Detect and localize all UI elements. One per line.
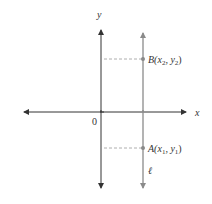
x-axis-label: x xyxy=(194,107,200,118)
coordinate-diagram: y x 0 B(x2, y2) A(x1, y1) ℓ xyxy=(0,0,212,204)
point-b xyxy=(141,57,145,61)
origin-label: 0 xyxy=(92,116,97,127)
point-a-label: A(x1, y1) xyxy=(147,143,182,156)
line-l-label: ℓ xyxy=(148,165,152,176)
y-axis-label: y xyxy=(96,9,102,20)
point-a xyxy=(141,146,145,150)
point-b-label: B(x2, y2) xyxy=(148,54,182,67)
